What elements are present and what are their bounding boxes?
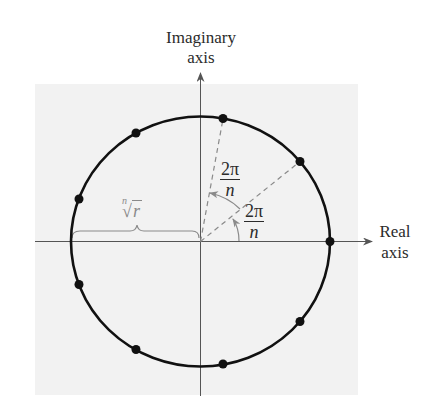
root-point-5 — [75, 280, 84, 289]
plot-background — [35, 84, 358, 395]
angle-label-upper-numerator: 2π — [220, 160, 240, 180]
root-point-8 — [296, 317, 305, 326]
real-axis-label-line1: Real — [372, 223, 418, 240]
angle-label-lower: 2π n — [244, 202, 264, 241]
angle-label-lower-denominator: n — [244, 222, 264, 241]
real-axis-label: Real axis — [372, 223, 418, 261]
angle-label-lower-numerator: 2π — [244, 202, 264, 222]
root-point-7 — [219, 360, 228, 369]
imaginary-axis-label-line2: axis — [150, 49, 252, 66]
imaginary-axis-label: Imaginary axis — [150, 29, 252, 66]
radius-label-arg: r — [132, 200, 142, 221]
root-point-3 — [132, 129, 141, 138]
root-point-1 — [296, 157, 305, 166]
radius-label: n√r — [122, 202, 142, 220]
root-point-2 — [219, 114, 228, 123]
angle-label-upper: 2π n — [220, 160, 240, 199]
root-point-0 — [326, 237, 335, 246]
radius-label-index: n — [122, 196, 127, 206]
root-point-4 — [75, 195, 84, 204]
angle-label-upper-denominator: n — [220, 180, 240, 199]
real-axis-label-line2: axis — [372, 244, 418, 261]
root-point-6 — [132, 345, 141, 354]
imaginary-axis-label-line1: Imaginary — [150, 29, 252, 46]
